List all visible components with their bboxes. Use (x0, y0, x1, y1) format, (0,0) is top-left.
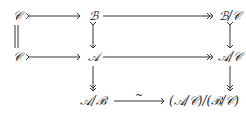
node-c-mid: 𝒞 (13, 51, 22, 63)
arrow-b-to-a (90, 22, 96, 48)
node-a: 𝒜 (88, 51, 99, 63)
arrow-b-to-b-over-c (103, 13, 213, 19)
iso-label: ~ (135, 90, 143, 100)
node-c-top: 𝒞 (13, 10, 22, 22)
node-b-over-c: ℬ/𝒞 (219, 10, 241, 22)
node-quotient: (𝒜/𝒞)/(ℬ/𝒞) (169, 95, 239, 107)
equality-c-c (15, 25, 18, 48)
arrow-c-to-a (26, 54, 80, 60)
arrow-c-to-b (26, 13, 80, 19)
node-a-over-b: 𝒜/ℬ (80, 95, 105, 107)
arrow-a-over-c-to-quotient (227, 66, 233, 91)
node-a-over-c: 𝒜/𝒞 (218, 51, 242, 63)
arrow-a-to-a-over-c (103, 54, 213, 60)
arrow-a-to-a-over-b (90, 66, 96, 91)
arrow-b-over-c-to-a-over-c (227, 22, 233, 48)
node-b: ℬ (89, 10, 98, 22)
